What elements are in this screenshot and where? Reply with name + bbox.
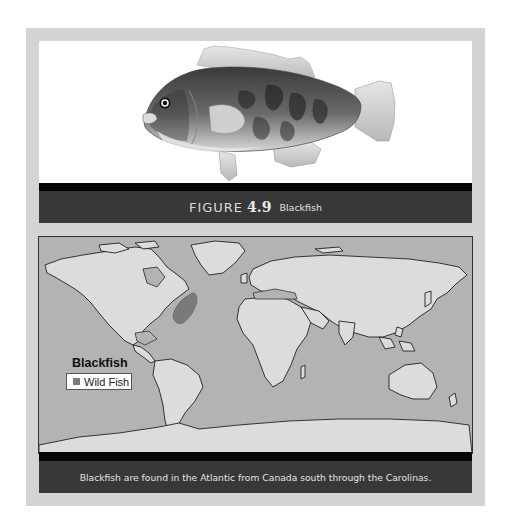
figure-divider-strip (39, 183, 472, 191)
figure-number: 4.9 (247, 199, 271, 215)
figure-frame: FIGURE 4.9 Blackfish (26, 28, 485, 506)
figure-title: Blackfish (279, 202, 322, 213)
map-caption-bar: Blackfish are found in the Atlantic from… (39, 461, 472, 493)
map-caption-text: Blackfish are found in the Atlantic from… (80, 472, 432, 483)
africa-landmass (237, 297, 311, 387)
greenland-landmass (191, 241, 245, 275)
antarctica-landmass (39, 419, 472, 453)
figure-label-word: FIGURE (189, 200, 243, 215)
map-divider-strip (39, 452, 472, 461)
wild-fish-swatch (73, 378, 80, 385)
world-map-graphic (39, 237, 472, 453)
south-america-landmass (153, 359, 203, 433)
legend-item-label: Wild Fish (84, 376, 129, 388)
map-legend: Wild Fish (66, 373, 132, 390)
legend-title: Blackfish (72, 356, 128, 370)
fish-illustration-panel (39, 41, 472, 183)
australia-landmass (389, 363, 437, 399)
figure-label-bar: FIGURE 4.9 Blackfish (39, 191, 472, 223)
blackfish-illustration (39, 41, 472, 183)
world-distribution-map: Blackfish Wild Fish (38, 236, 473, 454)
north-america-landmass (45, 247, 189, 345)
central-america-landmass (133, 345, 155, 363)
